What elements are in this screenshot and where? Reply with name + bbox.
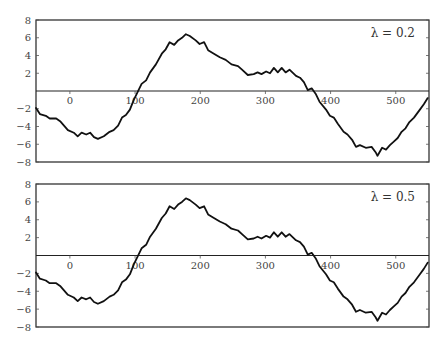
x-tick-label: 500: [386, 260, 405, 271]
x-tick-label: 0: [67, 95, 73, 106]
series-line-signal: [36, 34, 428, 156]
y-tick-label: −8: [16, 322, 31, 333]
lambda-annotation: λ = 0.2: [371, 26, 415, 40]
x-tick-label: 500: [386, 95, 405, 106]
x-tick-label: 200: [191, 95, 210, 106]
y-tick-label: 2: [25, 232, 31, 243]
y-tick-label: 4: [25, 50, 31, 61]
y-tick-label: 6: [25, 196, 31, 207]
y-tick-label: 2: [25, 68, 31, 79]
y-tick-label: −2: [16, 103, 31, 114]
x-tick-label: 300: [256, 260, 275, 271]
y-tick-label: −4: [16, 286, 31, 297]
panel-1: 8642−2−4−6−80100200300400500λ = 0.2: [16, 15, 429, 168]
figure: 8642−2−4−6−80100200300400500λ = 0.28642−…: [0, 0, 443, 347]
lambda-annotation: λ = 0.5: [371, 190, 415, 204]
x-tick-label: 0: [67, 260, 73, 271]
y-tick-label: −6: [16, 304, 31, 315]
y-tick-label: −2: [16, 268, 31, 279]
x-tick-label: 300: [256, 95, 275, 106]
x-tick-label: 200: [191, 260, 210, 271]
y-tick-label: 4: [25, 214, 31, 225]
y-tick-label: −6: [16, 139, 31, 150]
series-line-signal: [36, 198, 428, 320]
y-tick-label: −8: [16, 157, 31, 168]
y-tick-label: 8: [25, 15, 31, 26]
y-tick-label: −4: [16, 121, 31, 132]
y-tick-label: 6: [25, 32, 31, 43]
y-tick-label: 8: [25, 179, 31, 190]
x-tick-label: 400: [321, 95, 340, 106]
x-tick-label: 400: [321, 260, 340, 271]
panel-2: 8642−2−4−6−80100200300400500λ = 0.5: [16, 179, 429, 333]
